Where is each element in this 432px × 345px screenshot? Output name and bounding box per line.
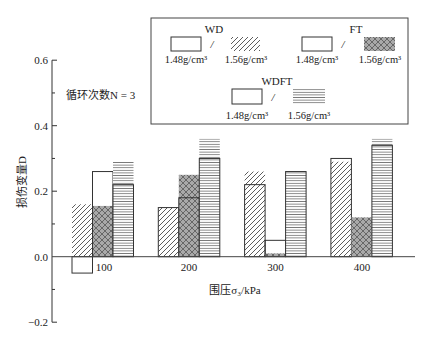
bar-wdft-156-200 [199, 139, 220, 257]
legend-swatch-open [302, 37, 332, 51]
y-tick-label: −0.2 [28, 316, 48, 328]
bar-ft-156-100 [93, 206, 114, 257]
legend-label: 1.56g/cm³ [225, 54, 268, 65]
bar-wdft-156-400 [372, 139, 393, 257]
bar-wdft-156-300 [286, 172, 307, 257]
legend-label: 1.56g/cm³ [359, 54, 402, 65]
y-axis [52, 60, 57, 322]
bar-wd-156-400 [331, 162, 352, 257]
bar-group-400 [331, 139, 393, 257]
bar-wd-148-100 [72, 257, 93, 273]
cycle-count-annotation: 循环次数N = 3 [66, 88, 136, 101]
y-tick-label: 0.4 [34, 120, 48, 132]
legend-swatch-open [171, 37, 201, 51]
bar-ft-156-200 [179, 175, 200, 257]
legend-group-title: WDFT [261, 75, 292, 87]
legend-label: 1.48g/cm³ [226, 110, 269, 121]
bar-wd-156-200 [158, 208, 179, 257]
legend-group-title: WD [205, 23, 223, 35]
legend-swatch-hatch [231, 37, 260, 51]
legend-group-title: FT [350, 23, 363, 35]
x-category-label: 300 [267, 261, 284, 273]
y-axis-title: 损伤变量D [15, 156, 28, 208]
damage-variable-bar-chart: −0.2 0.0 0.2 0.4 0.6 损伤变量D 100 200 300 4… [0, 0, 432, 345]
x-category-label: 100 [96, 261, 113, 273]
bar-wd-156-100 [72, 204, 93, 256]
legend: WD / 1.48g/cm³ 1.56g/cm³ FT / 1.48g/cm³ … [151, 18, 408, 124]
legend-swatch-crosshatch [364, 37, 395, 51]
bar-wdft-156-100 [113, 162, 134, 257]
y-tick-label: 0.6 [34, 54, 48, 66]
legend-label: 1.48g/cm³ [296, 54, 339, 65]
bar-ft-156-400 [351, 217, 372, 256]
x-axis-title: 围压σ₃/kPa [209, 284, 260, 296]
bar-group-300 [245, 172, 307, 257]
bar-groups [72, 139, 392, 273]
bar-group-200 [158, 139, 220, 257]
legend-swatch-open [232, 89, 262, 104]
legend-swatch-hlines [293, 89, 325, 104]
legend-box [151, 18, 408, 124]
legend-label: 1.48g/cm³ [165, 54, 208, 65]
y-tick-label: 0.2 [34, 185, 48, 197]
x-category-label: 400 [354, 261, 371, 273]
legend-label: 1.56g/cm³ [288, 110, 331, 121]
y-tick-label: 0.0 [34, 251, 48, 263]
x-category-label: 200 [181, 261, 198, 273]
